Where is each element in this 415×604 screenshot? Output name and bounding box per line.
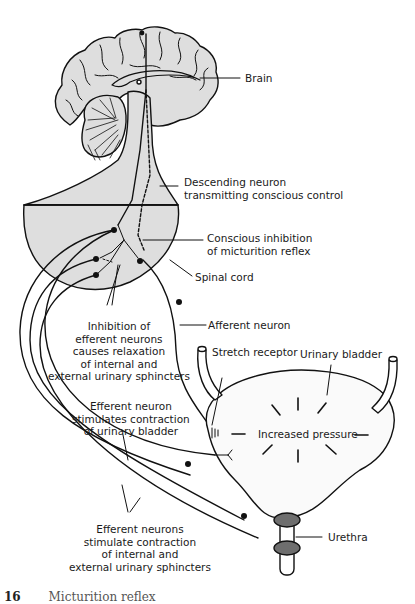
figure-number: 16 [4, 590, 21, 604]
label-stretch-receptor: Stretch receptor [212, 346, 298, 359]
label-afferent-neuron: Afferent neuron [208, 319, 290, 332]
label-efferent-sphincters: Efferent neurons stimulate contraction o… [69, 523, 211, 573]
external-sphincter [274, 541, 300, 555]
micturition-reflex-diagram [0, 0, 415, 604]
figure-caption: 16 Micturition reflex [4, 590, 156, 604]
label-increased-pressure: Increased pressure [258, 428, 358, 441]
internal-sphincter [274, 513, 300, 527]
label-efferent-bladder: Efferent neuron stimulates contraction o… [72, 400, 190, 438]
label-descending-neuron: Descending neuron transmitting conscious… [184, 176, 343, 201]
figure-caption-text: Micturition reflex [49, 590, 156, 604]
label-inhibition-efferent: Inhibition of efferent neurons causes re… [48, 320, 190, 383]
label-urinary-bladder: Urinary bladder [300, 348, 382, 361]
label-spinal-cord: Spinal cord [195, 271, 254, 284]
spinal-cord [24, 205, 179, 289]
label-conscious-inhibition: Conscious inhibition of micturition refl… [207, 232, 312, 257]
label-urethra: Urethra [328, 531, 368, 544]
urinary-bladder [206, 370, 394, 518]
label-brain: Brain [245, 72, 273, 85]
